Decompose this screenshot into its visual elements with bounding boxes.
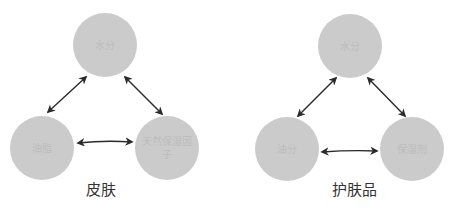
node-label: 油分: [277, 143, 297, 156]
node-label: 水分: [95, 39, 115, 52]
skincare-caption: 护肤品: [332, 178, 377, 199]
skincare-node-oil: 油分: [255, 117, 319, 181]
skincare-arrow-top-right: [368, 78, 405, 116]
skin-caption: 皮肤: [86, 178, 116, 199]
node-label: 水分: [340, 40, 360, 53]
skin-node-water: 水分: [73, 13, 137, 77]
node-label: 油脂: [32, 142, 52, 155]
skin-node-nmf: 天然保湿因子: [135, 116, 199, 180]
node-label: 天然保湿因子: [141, 135, 193, 161]
skincare-arrow-top-left: [298, 78, 336, 116]
skincare-node-humectant: 保湿剂: [380, 117, 444, 181]
skin-node-sebum: 油脂: [10, 116, 74, 180]
skin-arrow-top-right: [125, 77, 162, 114]
skin-arrow-top-left: [48, 77, 86, 112]
skincare-node-water: 水分: [318, 14, 382, 78]
node-label: 保湿剂: [397, 143, 427, 156]
skin-arrow-bottom: [78, 141, 132, 143]
arrows-layer: [0, 0, 457, 212]
skincare-arrow-bottom: [322, 151, 377, 152]
